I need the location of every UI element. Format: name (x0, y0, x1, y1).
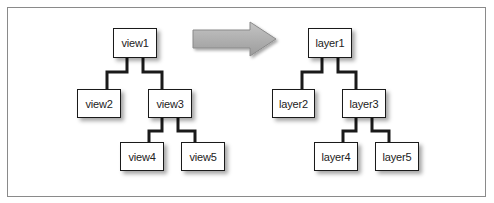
edge-layer1-layer3 (338, 58, 356, 90)
node-label: layer2 (279, 98, 308, 110)
edge-layer3-layer4 (343, 117, 356, 143)
node-layer2: layer2 (272, 89, 315, 118)
right-arrow-icon (193, 22, 276, 56)
node-view3: view3 (148, 89, 192, 118)
node-label: view5 (189, 151, 216, 163)
node-label: layer1 (316, 37, 345, 49)
node-layer1: layer1 (308, 28, 352, 58)
node-view4: view4 (120, 142, 164, 171)
node-label: layer3 (350, 98, 379, 110)
edge-view3-view5 (178, 117, 195, 143)
node-view1: view1 (113, 28, 157, 58)
connector-lines (0, 0, 494, 203)
node-label: view1 (121, 37, 148, 49)
node-layer5: layer5 (375, 142, 419, 171)
edge-view1-view2 (107, 58, 127, 90)
node-label: view4 (128, 151, 155, 163)
edge-layer1-layer2 (302, 58, 322, 90)
node-layer4: layer4 (314, 142, 358, 171)
node-label: layer5 (383, 151, 412, 163)
node-view2: view2 (77, 89, 121, 118)
edge-view1-view3 (143, 58, 162, 90)
edge-layer3-layer5 (372, 117, 389, 143)
node-label: view2 (85, 98, 112, 110)
node-view5: view5 (181, 142, 225, 171)
node-label: view3 (156, 98, 183, 110)
node-layer3: layer3 (342, 89, 386, 118)
node-label: layer4 (322, 151, 351, 163)
edge-view3-view4 (149, 117, 162, 143)
